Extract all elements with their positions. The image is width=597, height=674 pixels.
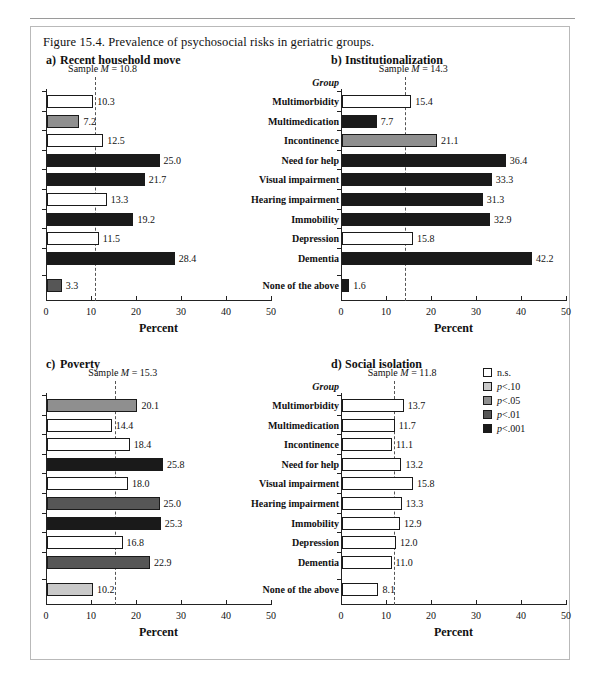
legend-label-0: n.s.	[497, 367, 511, 378]
sample-mean-label-d: Sample M = 11.8	[368, 367, 437, 378]
legend-swatch-4	[483, 424, 492, 433]
group-label-d-7: Depression	[292, 537, 339, 548]
sample-mean-line-d	[394, 381, 395, 605]
panel-letter-d: d)	[331, 357, 345, 372]
x-tick-d-10	[386, 600, 387, 605]
legend-item-2: p<.05	[483, 395, 520, 406]
legend-item-4: p<.001	[483, 423, 525, 434]
x-tick-label-d-0: 0	[329, 610, 353, 621]
x-tick-d-30	[476, 600, 477, 605]
bar-d-9	[342, 583, 378, 596]
group-label-d-5: Hearing impairment	[251, 498, 339, 509]
x-tick-label-d-10: 10	[374, 610, 398, 621]
page-top-rule	[30, 18, 575, 19]
x-tick-d-20	[431, 600, 432, 605]
group-label-d-0: Multimorbidity	[272, 400, 339, 411]
x-axis-title-d: Percent	[341, 625, 566, 640]
group-label-d-6: Immobility	[291, 518, 339, 529]
legend-item-1: p<.10	[483, 381, 520, 392]
bar-d-2	[342, 438, 392, 451]
legend-label-2: p<.05	[497, 395, 520, 406]
group-label-d-9: None of the above	[263, 584, 339, 595]
bar-d-0	[342, 399, 404, 412]
bar-value-d-0: 13.7	[408, 400, 426, 411]
bar-d-7	[342, 536, 396, 549]
bar-d-1	[342, 419, 395, 432]
x-tick-label-d-20: 20	[419, 610, 443, 621]
bar-value-d-6: 12.9	[404, 518, 422, 529]
plot-area-d: 01020304050Sample M = 11.813.711.711.113…	[341, 393, 566, 605]
x-axis-d	[341, 604, 566, 605]
bar-d-8	[342, 556, 392, 569]
legend-item-0: n.s.	[483, 367, 511, 378]
legend-swatch-1	[483, 382, 492, 391]
x-tick-d-50	[566, 600, 567, 605]
x-tick-label-d-30: 30	[464, 610, 488, 621]
bar-d-6	[342, 517, 400, 530]
bar-value-d-2: 11.1	[396, 439, 413, 450]
x-tick-label-d-40: 40	[509, 610, 533, 621]
bar-value-d-5: 13.3	[406, 498, 424, 509]
group-column-header-d: Group	[312, 381, 339, 392]
group-label-column-d: GroupMultimorbidityMultimedicationIncont…	[189, 393, 339, 605]
bar-value-d-8: 11.0	[396, 557, 413, 568]
group-label-d-3: Need for help	[281, 459, 339, 470]
group-label-d-8: Dementia	[298, 557, 339, 568]
group-label-d-2: Incontinence	[284, 439, 339, 450]
group-label-d-1: Multimedication	[268, 420, 339, 431]
x-tick-d-0	[341, 600, 342, 605]
legend-swatch-2	[483, 396, 492, 405]
x-tick-label-d-50: 50	[554, 610, 578, 621]
bar-value-d-1: 11.7	[399, 420, 416, 431]
legend-label-1: p<.10	[497, 381, 520, 392]
figure-frame: Figure 15.4. Prevalence of psychosocial …	[30, 26, 570, 660]
bar-d-5	[342, 497, 402, 510]
legend-item-3: p<.01	[483, 409, 520, 420]
bar-value-d-3: 13.2	[405, 459, 423, 470]
group-label-d-4: Visual impairment	[259, 478, 339, 489]
legend-swatch-0	[483, 368, 492, 377]
legend-label-4: p<.001	[497, 423, 525, 434]
bar-value-d-4: 15.8	[417, 478, 435, 489]
x-tick-d-40	[521, 600, 522, 605]
legend-label-3: p<.01	[497, 409, 520, 420]
bar-value-d-7: 12.0	[400, 537, 418, 548]
bar-d-3	[342, 458, 401, 471]
legend-swatch-3	[483, 410, 492, 419]
panel-d: d)Social isolation01020304050Sample M = …	[31, 27, 569, 659]
bar-d-4	[342, 477, 413, 490]
bar-value-d-9: 8.1	[382, 584, 395, 595]
